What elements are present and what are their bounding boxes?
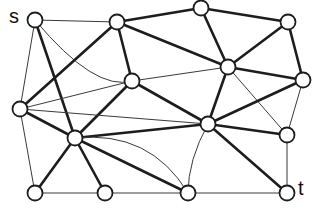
edge-layer (20, 8, 303, 193)
graph-edge (20, 20, 35, 109)
graph-edge (20, 109, 35, 193)
graph-edge (35, 138, 75, 193)
graph-node (194, 1, 209, 16)
graph-edge (75, 124, 208, 138)
graph-edge (75, 138, 188, 193)
graph-edge (20, 109, 208, 124)
graph-figure: s t (0, 0, 315, 212)
graph-edge (20, 22, 117, 109)
graph-node (110, 15, 125, 30)
graph-edge (117, 22, 132, 81)
graph-node (28, 13, 43, 28)
graph-edge (35, 20, 117, 22)
sink-vertex-label: t (298, 178, 304, 198)
graph-node (28, 186, 43, 201)
node-layer (13, 1, 311, 201)
graph-node (181, 186, 196, 201)
graph-node (280, 128, 295, 143)
graph-edge (75, 81, 132, 138)
graph-node (98, 186, 113, 201)
graph-edge (228, 22, 288, 67)
graph-node (201, 117, 216, 132)
graph-edge (188, 124, 208, 193)
graph-node (296, 73, 311, 88)
graph-edge (228, 67, 303, 80)
graph-edge (132, 67, 228, 81)
graph-node (281, 15, 296, 30)
graph-node (13, 102, 28, 117)
source-vertex-label: s (9, 6, 19, 26)
graph-node (68, 131, 83, 146)
graph-node (280, 186, 295, 201)
graph-canvas (0, 0, 315, 212)
graph-edge (288, 22, 303, 80)
graph-edge (287, 80, 303, 135)
graph-node (125, 74, 140, 89)
graph-edge (201, 8, 288, 22)
graph-edge (117, 8, 201, 22)
graph-edge (132, 81, 208, 124)
graph-node (221, 60, 236, 75)
